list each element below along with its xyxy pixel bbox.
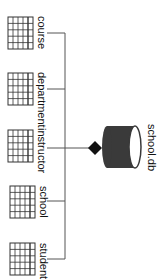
table-grid-icon-student xyxy=(10,243,35,275)
database-label[interactable]: school.db xyxy=(146,124,157,171)
table-grid-icon-school xyxy=(10,186,35,218)
table-grid-icon-course xyxy=(8,17,33,49)
table-grid-icon-instructor xyxy=(8,130,33,162)
aggregation-diamond-icon xyxy=(88,141,102,155)
table-label-course[interactable]: course xyxy=(36,16,47,49)
database-cylinder-icon xyxy=(102,126,141,168)
table-grid-icon-department xyxy=(8,73,33,105)
table-label-instructor[interactable]: instructor xyxy=(36,128,47,173)
table-label-student[interactable]: student xyxy=(38,243,49,279)
table-label-school[interactable]: school xyxy=(38,186,49,218)
connector-lines xyxy=(47,33,90,259)
table-label-department[interactable]: department xyxy=(36,72,47,128)
